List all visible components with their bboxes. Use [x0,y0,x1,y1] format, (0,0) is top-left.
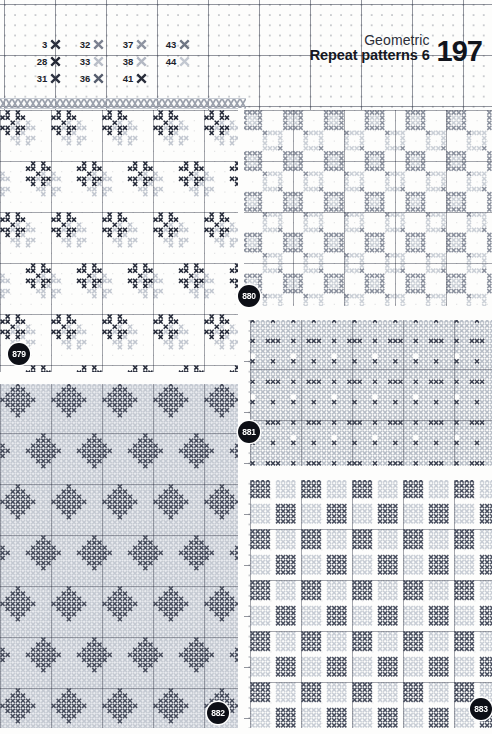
pattern-chart-882 [0,382,238,734]
legend-entry-44: 44 [153,53,190,70]
cross-stitch-symbol [136,56,147,67]
legend-color-number: 28 [37,57,47,67]
legend-entry-3: 3 [24,36,61,53]
panel-gutter [238,108,244,734]
legend-entry-empty [153,70,190,87]
page-title: Repeat patterns 6 [310,48,430,64]
panel-gutter [0,728,492,734]
pattern-chart-879 [0,110,238,376]
pattern-chart-880 [242,110,492,310]
legend-color-number: 41 [123,74,133,84]
legend-entry-31: 31 [24,70,61,87]
pattern-canvas-880 [242,110,492,310]
legend-entry-36: 36 [67,70,104,87]
cross-stitch-symbol [179,39,190,50]
zigzag-border-band [0,96,246,109]
legend-color-number: 43 [166,40,176,50]
legend-color-number: 32 [80,40,90,50]
legend-color-number: 37 [123,40,133,50]
legend-entry-28: 28 [24,53,61,70]
cross-stitch-symbol [179,56,190,67]
pattern-badge-883: 883 [470,698,492,720]
cross-stitch-symbol [50,39,61,50]
cross-stitch-symbol [93,39,104,50]
pattern-badge-882: 882 [207,702,229,724]
legend-band: 332374328333844313641 Geometric Repeat p… [0,0,492,95]
legend-color-number: 38 [123,57,133,67]
cross-stitch-symbol [93,56,104,67]
pattern-canvas-879 [0,110,238,376]
pattern-badge-880: 880 [238,285,260,307]
header-title-block: Geometric Repeat patterns 6 197 [310,33,482,64]
pattern-chart-881 [250,318,492,468]
legend-color-number: 3 [42,40,47,50]
panel-gutter [0,372,240,384]
legend-color-number: 36 [80,74,90,84]
pattern-canvas-882 [0,382,238,734]
legend-entry-32: 32 [67,36,104,53]
legend-entry-41: 41 [110,70,147,87]
cross-stitch-symbol [93,73,104,84]
pattern-badge-881: 881 [238,421,260,443]
header-category: Geometric [310,33,430,48]
pattern-badge-879: 879 [8,343,30,365]
pattern-canvas-881 [250,318,492,468]
legend-color-number: 44 [166,57,176,67]
page-number: 197 [437,39,482,63]
legend-color-number: 31 [37,74,47,84]
pattern-canvas-883 [250,478,492,734]
legend-entry-43: 43 [153,36,190,53]
cross-stitch-symbol [50,56,61,67]
panel-gutter [244,466,492,480]
panel-gutter [244,306,492,320]
legend-entry-33: 33 [67,53,104,70]
pattern-chart-883 [250,478,492,734]
legend-entry-37: 37 [110,36,147,53]
cross-stitch-symbol [136,39,147,50]
cross-stitch-symbol [50,73,61,84]
cross-stitch-symbol [136,73,147,84]
legend-entry-38: 38 [110,53,147,70]
thread-color-legend: 332374328333844313641 [24,36,190,87]
legend-color-number: 33 [80,57,90,67]
